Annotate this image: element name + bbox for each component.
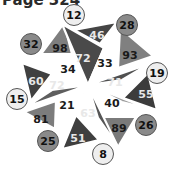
- number-circle-label: 28: [119, 19, 134, 32]
- outer-triangle-label: 89: [111, 122, 126, 135]
- number-circle: 15: [7, 89, 28, 110]
- outer-triangle-label: 55: [138, 88, 153, 101]
- outer-triangle-label: 60: [28, 75, 44, 88]
- inner-triangle-label: 21: [59, 99, 74, 112]
- outer-triangle-label: 93: [122, 49, 137, 62]
- inner-triangle-label: 63: [80, 107, 95, 120]
- inner-triangle-label: 33: [97, 57, 112, 70]
- number-circle: 12: [64, 5, 85, 26]
- outer-triangle-label: 81: [33, 113, 48, 126]
- number-pinwheel-puzzle: 4693558951816098723371406321723412281926…: [0, 0, 173, 169]
- number-circle-label: 12: [66, 9, 81, 22]
- inner-triangle-label: 40: [104, 97, 120, 110]
- outer-triangle-label: 98: [52, 42, 67, 55]
- number-circle: 25: [38, 131, 59, 152]
- number-circle: 8: [93, 144, 114, 165]
- number-circle-label: 25: [40, 135, 55, 148]
- number-circle-label: 26: [138, 119, 154, 132]
- number-circle-label: 32: [23, 38, 38, 51]
- inner-triangle-label: 72: [49, 79, 64, 92]
- number-circle-label: 19: [149, 67, 164, 80]
- number-circle-label: 8: [99, 148, 107, 161]
- number-circle: 19: [147, 63, 168, 84]
- number-circle: 28: [117, 15, 138, 36]
- inner-triangle-label: 71: [107, 76, 122, 89]
- inner-triangle-label: 72: [75, 52, 90, 65]
- number-circle: 32: [21, 34, 42, 55]
- inner-triangle-label: 34: [60, 63, 76, 76]
- number-circle-label: 15: [9, 93, 24, 106]
- number-circle: 26: [136, 115, 157, 136]
- outer-triangle-label: 51: [70, 132, 85, 145]
